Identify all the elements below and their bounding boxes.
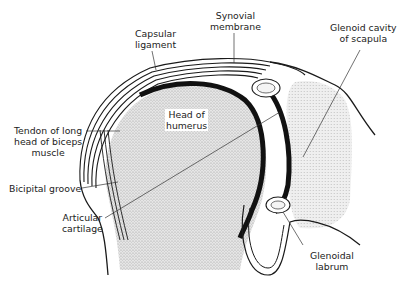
label-glenoidal-labrum: Glenoidal labrum — [310, 250, 354, 272]
lower-labrum — [266, 197, 290, 213]
label-bicipital-groove: Bicipital groove — [9, 183, 81, 194]
upper-labrum — [252, 79, 280, 97]
label-synovial-membrane: Synovial membrane — [210, 10, 261, 32]
scapula-bone — [287, 81, 352, 229]
label-articular-cartilage: Articular cartilage — [62, 212, 103, 234]
label-head-of-humerus: Head of humerus — [165, 109, 208, 131]
label-tendon-biceps: Tendon of long head of biceps muscle — [14, 125, 82, 158]
label-glenoid-cavity: Glenoid cavity of scapula — [330, 22, 397, 44]
label-capsular-ligament: Capsular ligament — [135, 28, 176, 50]
glenoid-cartilage — [268, 90, 289, 212]
